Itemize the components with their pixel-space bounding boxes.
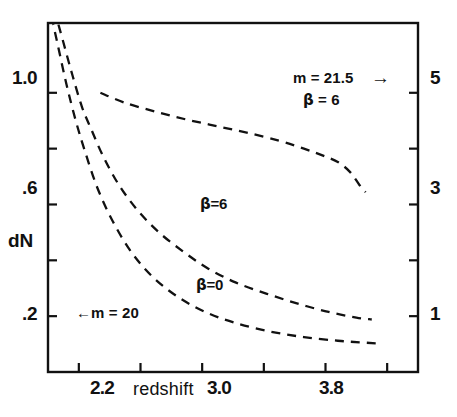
beta-value: =0 — [207, 276, 224, 293]
x-axis-tick-label-3.0: 3.0 — [207, 378, 231, 397]
plot-area — [0, 0, 457, 417]
x-axis-tick-label-2.2: 2.2 — [90, 378, 114, 397]
left-arrow-icon: ← — [76, 304, 91, 321]
axis-ticks — [48, 93, 418, 372]
beta-symbol: β — [196, 276, 207, 294]
annotation-m20: ←m = 20 — [76, 305, 139, 320]
curve-1 — [54, 9, 372, 319]
x-axis-tick-label-3.8: 3.8 — [319, 378, 343, 397]
x-axis-label: redshift — [133, 380, 194, 398]
annotation-m21.5-text: m = 21.5 — [293, 70, 353, 85]
y-axis-tick-label-1.0: 1.0 — [12, 68, 37, 87]
beta-symbol: β — [200, 195, 211, 213]
y2-axis-tick-label-5: 5 — [430, 68, 441, 87]
annotation-m21.5-beta: β = 6 — [303, 92, 340, 108]
beta-value: =6 — [211, 195, 228, 212]
y-axis-tick-label-.2: .2 — [22, 304, 37, 323]
curve-label-beta-6: β=6 — [200, 196, 227, 212]
y-axis-label-dN: dN — [8, 231, 33, 250]
beta-value: = 6 — [314, 91, 340, 108]
right-arrow-icon: → — [371, 68, 390, 87]
y-axis-tick-label-.6: .6 — [22, 178, 37, 197]
y2-axis-tick-label-1: 1 — [430, 304, 441, 323]
curve-label-beta-0: β=0 — [196, 277, 223, 293]
annotation-m20-text: m = 20 — [91, 304, 139, 321]
y2-axis-tick-label-3: 3 — [430, 178, 441, 197]
beta-symbol: β — [303, 91, 314, 109]
figure-canvas: 1.0 .6 dN .2 5 3 1 2.2 3.0 3.8 redshift … — [0, 0, 457, 417]
